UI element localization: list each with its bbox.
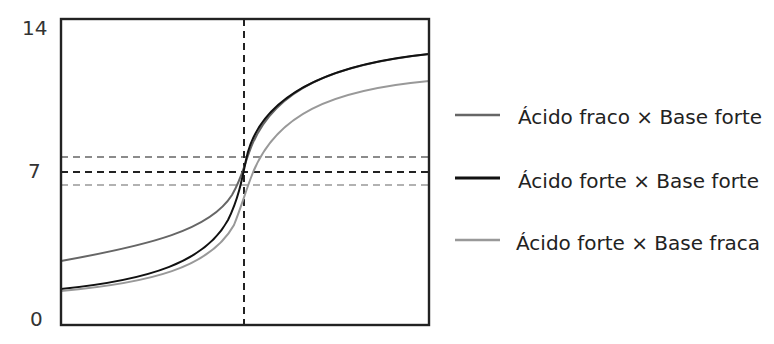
legend-label-weak-acid-strong-base: Ácido fraco × Base forte xyxy=(518,105,762,129)
y-tick-0: 0 xyxy=(30,307,43,331)
legend-label-strong-acid-strong-base: Ácido forte × Base forte xyxy=(518,169,759,193)
legend-label-strong-acid-weak-base: Ácido forte × Base fraca xyxy=(516,231,760,255)
y-tick-14: 14 xyxy=(22,16,47,40)
legend: Ácido fraco × Base forte Ácido forte × B… xyxy=(455,105,762,255)
y-tick-7: 7 xyxy=(28,159,41,183)
titration-chart: 14 7 0 Ácido fraco × Base forte Ácido fo… xyxy=(0,0,774,344)
